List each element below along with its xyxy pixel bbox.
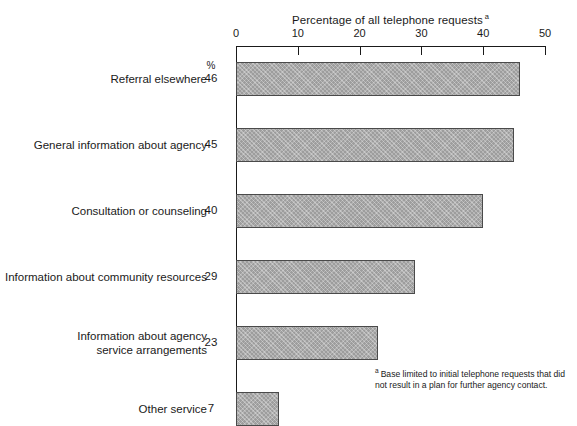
category-label: Referral elsewhere — [0, 72, 207, 86]
x-tick-mark — [545, 46, 546, 55]
bar — [236, 128, 514, 162]
chart-title-text: Percentage of all telephone requests — [292, 14, 483, 26]
x-tick-mark — [421, 46, 422, 55]
footnote-marker: a — [375, 367, 379, 374]
value-label: 46 — [196, 72, 226, 84]
value-label: 23 — [196, 336, 226, 348]
bar — [236, 194, 483, 228]
x-tick-mark — [483, 46, 484, 55]
bar-row: Other service7 — [0, 392, 577, 426]
bar — [236, 392, 279, 426]
footnote-text: Base limited to initial telephone reques… — [375, 369, 565, 391]
value-label: 7 — [196, 402, 226, 414]
category-label: Information about community resources — [0, 270, 207, 284]
bar-row: Referral elsewhere46 — [0, 62, 577, 96]
x-tick-label: 10 — [292, 27, 304, 39]
x-tick-mark — [360, 46, 361, 55]
chart-footnote: aBase limited to initial telephone reque… — [375, 365, 575, 392]
value-label: 45 — [196, 138, 226, 150]
category-label: General information about agency — [0, 138, 207, 152]
chart-title-footnote-marker: a — [485, 12, 489, 21]
category-label: Other service — [0, 402, 207, 416]
bar-row: General information about agency45 — [0, 128, 577, 162]
x-axis-tick-labels: 01020304050 — [0, 27, 577, 41]
x-tick-mark — [236, 46, 237, 55]
x-tick-label: 20 — [353, 27, 365, 39]
value-label: 29 — [196, 270, 226, 282]
bar-row: Information about community resources29 — [0, 260, 577, 294]
bar-row: Consultation or counseling40 — [0, 194, 577, 228]
value-label: 40 — [196, 204, 226, 216]
x-tick-label: 40 — [477, 27, 489, 39]
bar — [236, 326, 378, 360]
x-tick-label: 50 — [539, 27, 551, 39]
bar — [236, 260, 415, 294]
chart-title: Percentage of all telephone requestsa — [236, 12, 545, 26]
bar — [236, 62, 520, 96]
bar-row: Information about agency service arrange… — [0, 326, 577, 360]
x-tick-label: 0 — [233, 27, 239, 39]
x-tick-label: 30 — [415, 27, 427, 39]
x-axis-line — [236, 46, 545, 47]
category-label: Information about agency service arrange… — [0, 329, 207, 357]
x-tick-mark — [298, 46, 299, 55]
category-label: Consultation or counseling — [0, 204, 207, 218]
